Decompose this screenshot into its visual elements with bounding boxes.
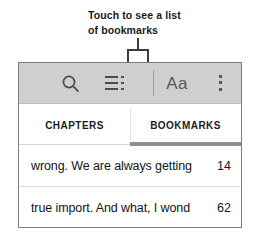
search-icon [61, 74, 80, 93]
tab-separator [130, 107, 131, 140]
tab-selected-indicator [130, 142, 242, 146]
tab-inactive-underline [19, 144, 130, 145]
tab-bookmarks[interactable]: BOOKMARKS [130, 104, 241, 146]
callout-line-2: of bookmarks [88, 23, 218, 38]
callout-line-1: Touch to see a list [88, 9, 181, 21]
list-item[interactable]: true import. And what, I wond 62 [19, 187, 241, 228]
bookmark-page-number: 14 [209, 159, 231, 173]
font-size-label: Aa [166, 75, 187, 92]
ereader-panel: Aa CHAPTERS BOOKMARKS wrong. We are alwa… [18, 62, 242, 228]
bookmark-text: true import. And what, I wond [31, 201, 209, 215]
bookmark-page-number: 62 [209, 201, 231, 215]
bookmark-list: wrong. We are always getting 14 true imp… [19, 146, 241, 228]
bookmark-text: wrong. We are always getting [31, 159, 209, 173]
list-item[interactable]: wrong. We are always getting 14 [19, 146, 241, 187]
search-button[interactable] [53, 63, 87, 103]
list-icon [105, 75, 127, 92]
font-size-button[interactable]: Aa [157, 63, 197, 103]
tab-chapters[interactable]: CHAPTERS [19, 104, 130, 146]
callout-annotation: Touch to see a list of bookmarks [88, 8, 218, 38]
overflow-menu-button[interactable] [207, 63, 235, 103]
tab-bookmarks-label: BOOKMARKS [150, 120, 221, 131]
tab-chapters-label: CHAPTERS [45, 120, 104, 131]
tab-bar: CHAPTERS BOOKMARKS [19, 104, 241, 146]
reader-toolbar: Aa [19, 63, 241, 104]
more-vertical-icon [219, 75, 223, 92]
toolbar-divider [153, 70, 154, 96]
bookmarks-list-button[interactable] [99, 63, 133, 103]
leader-line-bar [127, 49, 149, 51]
